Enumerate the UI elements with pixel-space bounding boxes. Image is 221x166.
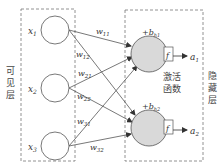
svg-text:+bh1: +bh1 xyxy=(142,28,160,38)
visible-layer-label: 可 见 层 xyxy=(6,66,15,100)
output-label-a1: a1 xyxy=(190,52,199,63)
edge-x3-h1 xyxy=(69,66,137,146)
svg-text:层: 层 xyxy=(208,95,217,105)
edge-x3-h2 xyxy=(69,134,131,146)
input-node-x1: x1 xyxy=(28,16,69,44)
input-node-x2: x2 xyxy=(28,74,69,102)
output-label-a2: a2 xyxy=(190,126,199,137)
weight-label-w22: w22 xyxy=(77,92,91,102)
svg-text:+bh2: +bh2 xyxy=(142,102,160,112)
input-node-x3: x3 xyxy=(28,132,69,160)
svg-text:x2: x2 xyxy=(28,84,37,95)
activation-function-label-line2: 函数 xyxy=(163,83,181,94)
weight-label-w32: w32 xyxy=(90,143,104,153)
svg-text:层: 层 xyxy=(6,90,15,100)
hidden-node-h2: +bh2 f a2 xyxy=(131,102,199,146)
neural-network-diagram: x1 x2 x3 w11 w12 w21 w22 w31 w32 +bh1 f … xyxy=(0,0,221,166)
weight-label-w12: w12 xyxy=(76,50,90,60)
activation-function-label-line1: 激活 xyxy=(163,71,181,82)
svg-text:x3: x3 xyxy=(28,142,37,153)
hidden-node-h1: +bh1 f a1 xyxy=(131,28,199,72)
svg-text:x1: x1 xyxy=(28,26,37,37)
weight-label-w11: w11 xyxy=(96,27,110,37)
svg-text:隐: 隐 xyxy=(208,70,217,81)
svg-text:见: 见 xyxy=(6,78,15,88)
svg-text:藏: 藏 xyxy=(208,82,217,93)
hidden-layer-label: 隐 藏 层 xyxy=(208,70,217,105)
weight-label-w31: w31 xyxy=(77,117,91,127)
weight-label-w21: w21 xyxy=(78,69,92,79)
svg-text:可: 可 xyxy=(6,66,15,76)
weight-connections xyxy=(69,30,137,146)
